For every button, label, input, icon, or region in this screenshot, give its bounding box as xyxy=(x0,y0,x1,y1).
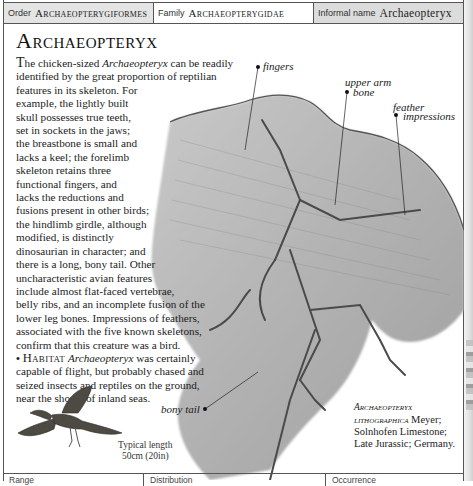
description-line: The chicken-sized Archaeopteryx can be r… xyxy=(16,56,246,70)
habitat-line: • Habitat Archaeopteryx was certainly xyxy=(16,352,246,365)
order-cell: Order Archaeopterygiformes xyxy=(4,3,154,23)
drop-cap: T xyxy=(16,55,25,70)
description-line: confirm that this creature was a bird. xyxy=(16,339,246,352)
fingers-callout: fingers xyxy=(263,60,294,72)
specimen-caption: Archaeopteryx lithographica Meyer; Solnh… xyxy=(354,402,464,449)
upper-arm-callout-dot xyxy=(345,90,349,94)
description-line: lower leg bones. Impressions of feathers… xyxy=(16,312,246,325)
species-line: lithographica Meyer; xyxy=(354,414,464,427)
order-value: Archaeopterygiformes xyxy=(35,7,147,19)
occurrence-label: Occurrence xyxy=(332,475,376,485)
habitat-line: capable of flight, but probably chased a… xyxy=(16,365,246,378)
family-cell: Family Archaeopterygidae xyxy=(154,3,314,23)
species-epithet: lithographica xyxy=(354,415,408,425)
description-line: lacks the reductions and xyxy=(16,191,246,204)
species-author: Meyer; xyxy=(408,414,441,425)
description-text: The chicken-sized Archaeopteryx can be r… xyxy=(16,56,246,406)
informal-name-value: Archaeopteryx xyxy=(380,7,452,19)
species-genus: Archaeopteryx xyxy=(354,402,464,414)
description-line: associated with the five known skeletons… xyxy=(16,325,246,338)
info-footer-bar: Range Distribution Occurrence xyxy=(3,473,464,486)
description-line: there is a long, bony tail. Other xyxy=(16,258,246,271)
bullet: • xyxy=(16,352,20,364)
description-line: identified by the great proportion of re… xyxy=(16,70,246,83)
typical-length-label: Typical length xyxy=(118,440,172,451)
habitat-genus-name: Archaeopteryx xyxy=(68,352,133,364)
description-line: belly ribs, and an incomplete fusion of … xyxy=(16,298,246,311)
fingers-callout-dot xyxy=(256,65,260,69)
formation: Solnhofen Limestone; xyxy=(354,426,464,438)
age-and-locality: Late Jurassic; Germany. xyxy=(354,438,464,450)
archaeopteryx-reconstruction-image xyxy=(12,383,122,453)
typical-length-value: 50cm (20in) xyxy=(118,451,172,462)
description-line: skeleton retains three xyxy=(16,164,246,177)
feather-callout-line2: impressions xyxy=(403,110,455,122)
distribution-label: Distribution xyxy=(150,475,193,485)
informal-name-label: Informal name xyxy=(318,8,376,18)
typical-length: Typical length 50cm (20in) xyxy=(118,440,172,462)
adjacent-page-strip xyxy=(466,340,473,410)
description-line: set in sockets in the jaws; xyxy=(16,124,246,137)
distribution-cell: Distribution xyxy=(144,474,326,486)
family-value: Archaeopterygidae xyxy=(189,7,285,19)
description-line: include almost flat-faced vertebrae, xyxy=(16,285,246,298)
occurrence-cell: Occurrence xyxy=(326,474,464,486)
feather-callout-dot xyxy=(394,113,398,117)
order-label: Order xyxy=(8,8,31,18)
range-cell: Range xyxy=(3,474,144,486)
upper-arm-callout-line2: bone xyxy=(353,86,374,98)
habitat-heading: Habitat xyxy=(23,351,65,365)
description-line: example, the lightly built xyxy=(16,97,246,110)
description-line: the breastbone is small and xyxy=(16,137,246,150)
description-line: fusions present in other birds; xyxy=(16,204,246,217)
description-line: skull possesses true teeth, xyxy=(16,111,246,124)
page-title: Archaeopteryx xyxy=(16,28,158,54)
bony-tail-callout-dot xyxy=(203,407,207,411)
adjacent-page-edge xyxy=(464,0,473,481)
description-line: uncharacteristic avian features xyxy=(16,272,246,285)
family-label: Family xyxy=(158,8,185,18)
description-line: the hindlimb girdle, although xyxy=(16,218,246,231)
description-line: lacks a keel; the forelimb xyxy=(16,151,246,164)
classification-header: Order Archaeopterygiformes Family Archae… xyxy=(3,2,464,24)
description-line: modified, is distinctly xyxy=(16,231,246,244)
genus-name: Archaeopteryx xyxy=(102,57,167,69)
description-line: features in its skeleton. For xyxy=(16,84,246,97)
description-line: dinosaurian in character; and xyxy=(16,245,246,258)
informal-name-cell: Informal name Archaeopteryx xyxy=(314,3,463,23)
description-line: functional fingers, and xyxy=(16,178,246,191)
range-label: Range xyxy=(9,475,34,485)
